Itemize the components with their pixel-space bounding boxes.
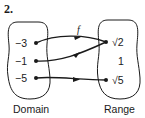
arrow-neg3-to-sqrt2 <box>36 36 106 43</box>
range-label: Range <box>104 103 135 115</box>
arrow-neg5-to-sqrt5 <box>36 77 106 80</box>
domain-value: −1 <box>15 55 27 67</box>
domain-label: Domain <box>13 103 49 115</box>
function-label: f <box>77 24 80 35</box>
range-value: √5 <box>112 74 124 86</box>
range-value: 1 <box>118 55 124 67</box>
domain-value: −5 <box>15 72 27 84</box>
range-value: √2 <box>112 36 124 48</box>
domain-value: −3 <box>15 37 27 49</box>
